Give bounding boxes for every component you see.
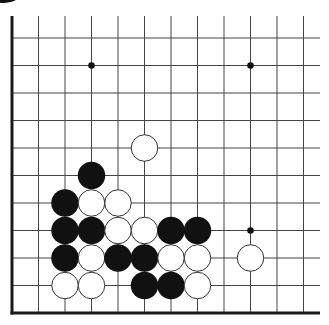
white-stone[interactable]	[131, 135, 158, 162]
white-stone[interactable]	[105, 217, 132, 244]
black-stone[interactable]	[131, 244, 159, 272]
black-stone[interactable]	[157, 272, 185, 300]
star-point-icon	[247, 227, 254, 234]
partial-stones	[0, 0, 24, 3]
white-stone[interactable]	[52, 272, 79, 299]
black-stone[interactable]	[157, 217, 185, 245]
white-stone[interactable]	[184, 272, 211, 299]
star-point-icon	[247, 62, 254, 69]
black-stone[interactable]	[51, 244, 79, 272]
white-stone[interactable]	[78, 190, 105, 217]
white-stone[interactable]	[237, 245, 264, 272]
black-stone[interactable]	[131, 272, 159, 300]
white-stone[interactable]	[158, 245, 185, 272]
black-stone[interactable]	[104, 244, 132, 272]
black-stone[interactable]	[51, 217, 79, 245]
black-stone[interactable]	[78, 217, 106, 245]
white-stone[interactable]	[105, 190, 132, 217]
stones	[51, 135, 264, 300]
black-stone[interactable]	[184, 217, 212, 245]
black-stone[interactable]	[78, 162, 106, 190]
white-stone[interactable]	[184, 245, 211, 272]
white-stone[interactable]	[78, 245, 105, 272]
black-stone[interactable]	[51, 189, 79, 217]
star-point-icon	[88, 62, 95, 69]
black-stone-partial	[0, 0, 24, 3]
go-board-canvas[interactable]	[0, 0, 329, 325]
white-stone[interactable]	[131, 217, 158, 244]
white-stone[interactable]	[78, 272, 105, 299]
